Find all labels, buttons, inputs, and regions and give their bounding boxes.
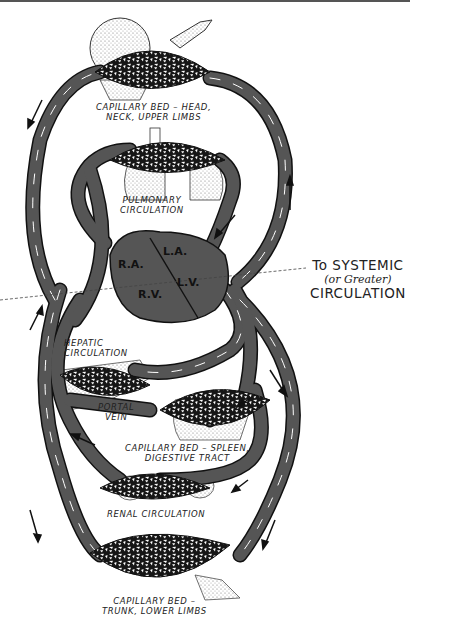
label-line: NECK, UPPER LIMBS (96, 112, 211, 122)
label-line: TRUNK, LOWER LIMBS (102, 606, 207, 616)
label-line: HEPATIC (64, 338, 128, 348)
label-trunk: CAPILLARY BED – TRUNK, LOWER LIMBS (102, 596, 207, 616)
label-pulmonary: PULMONARY CIRCULATION (120, 195, 184, 215)
label-line: CIRCULATION (64, 348, 128, 358)
label-line: VEIN (98, 412, 134, 422)
heart-rv: R.V. (138, 288, 162, 301)
label-portal-vein: PORTAL VEIN (98, 402, 134, 422)
callout-line1: To SYSTEMIC (310, 258, 406, 273)
label-line: CAPILLARY BED – SPLEEN, (125, 443, 250, 453)
circulation-diagram: CAPILLARY BED – HEAD, NECK, UPPER LIMBS … (0, 0, 456, 621)
label-line: PORTAL (98, 402, 134, 412)
label-line: CAPILLARY BED – (102, 596, 207, 606)
label-line: CIRCULATION (120, 205, 184, 215)
label-line: PULMONARY (120, 195, 184, 205)
vessel-network (0, 0, 456, 621)
callout-line3: CIRCULATION (310, 286, 406, 301)
systemic-callout: To SYSTEMIC (or Greater) CIRCULATION (310, 258, 406, 301)
label-line: CAPILLARY BED – HEAD, (96, 102, 211, 112)
heart-lv: L.V. (177, 276, 199, 289)
label-line: DIGESTIVE TRACT (125, 453, 250, 463)
label-spleen: CAPILLARY BED – SPLEEN, DIGESTIVE TRACT (125, 443, 250, 463)
heart-la: L.A. (163, 245, 187, 258)
heart-ra: R.A. (118, 258, 144, 271)
label-renal: RENAL CIRCULATION (107, 509, 205, 519)
label-capillary-head: CAPILLARY BED – HEAD, NECK, UPPER LIMBS (96, 102, 211, 122)
label-line: RENAL CIRCULATION (107, 509, 205, 519)
label-hepatic: HEPATIC CIRCULATION (64, 338, 128, 358)
